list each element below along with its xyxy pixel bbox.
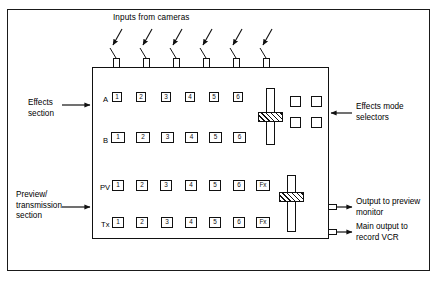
- bus-b-button-1[interactable]: 1: [111, 132, 125, 143]
- bus-a-button-1[interactable]: 1: [112, 92, 122, 102]
- bus-b-button-3[interactable]: 3: [161, 132, 174, 143]
- bus-pv-button-4[interactable]: 4: [185, 180, 197, 191]
- bus-row-label-b: B: [103, 136, 108, 145]
- bus-b-button-6[interactable]: 6: [233, 132, 246, 143]
- camera-input-connector: [203, 58, 210, 67]
- camera-input-connector: [263, 58, 270, 67]
- camera-input-connector: [113, 58, 120, 67]
- bus-pv-button-2[interactable]: 2: [136, 180, 148, 191]
- preview-transmission-line-2: transmission: [16, 201, 62, 212]
- bus-tx-button-5[interactable]: 5: [209, 217, 221, 228]
- bus-a-button-4[interactable]: 4: [185, 92, 195, 102]
- effects-mode-selector-4[interactable]: [311, 117, 322, 128]
- bus-a-button-2[interactable]: 2: [136, 92, 146, 102]
- preview-transmission-fader-handle[interactable]: [279, 192, 304, 202]
- camera-input-connector: [173, 58, 180, 67]
- bus-pv-button-1[interactable]: 1: [112, 180, 124, 191]
- bus-tx-button-6[interactable]: 6: [233, 217, 245, 228]
- bus-b-button-5[interactable]: 5: [209, 132, 222, 143]
- bus-pv-button-5[interactable]: 5: [209, 180, 221, 191]
- bus-pv-button-3[interactable]: 3: [160, 180, 172, 191]
- effects-section-line-2: section: [28, 109, 54, 120]
- effects-section-line-1: Effects: [28, 98, 54, 109]
- output-preview-monitor-label: Output to preview monitor: [356, 197, 420, 218]
- effects-mode-selector-3[interactable]: [290, 117, 301, 128]
- preview-transmission-line-1: Preview/: [16, 190, 62, 201]
- main-output-connector: [329, 229, 337, 235]
- bus-a-button-3[interactable]: 3: [161, 92, 171, 102]
- preview-output-line-1: Output to preview: [356, 197, 420, 208]
- effects-mode-selectors-label: Effects mode selectors: [356, 102, 404, 123]
- bus-a-button-5[interactable]: 5: [209, 92, 219, 102]
- bus-tx-button-2[interactable]: 2: [136, 217, 148, 228]
- main-output-vcr-label: Main output to record VCR: [356, 222, 408, 243]
- bus-pv-button-6[interactable]: 6: [233, 180, 245, 191]
- bus-b-button-4[interactable]: 4: [185, 132, 198, 143]
- preview-transmission-line-3: section: [16, 211, 62, 222]
- bus-row-label-a: A: [103, 95, 108, 104]
- preview-output-connector: [329, 204, 337, 210]
- preview-transmission-fader-track[interactable]: [287, 175, 296, 232]
- effects-fader-handle[interactable]: [258, 112, 283, 122]
- effects-mode-line-2: selectors: [356, 113, 404, 124]
- bus-b-button-2[interactable]: 2: [136, 132, 150, 143]
- bus-tx-button-3[interactable]: 3: [161, 217, 173, 228]
- bus-row-label-pv: PV: [100, 183, 110, 192]
- effects-mode-selector-2[interactable]: [311, 96, 322, 107]
- effects-mode-selector-1[interactable]: [290, 96, 301, 107]
- main-output-line-2: record VCR: [356, 233, 408, 244]
- bus-pv-button-fx[interactable]: Fx: [256, 180, 270, 191]
- camera-input-connector: [233, 58, 240, 67]
- effects-mode-line-1: Effects mode: [356, 102, 404, 113]
- bus-tx-button-fx[interactable]: Fx: [256, 217, 270, 228]
- preview-transmission-section-label: Preview/ transmission section: [16, 190, 62, 222]
- preview-output-line-2: monitor: [356, 208, 420, 219]
- figure-canvas: Inputs from cameras: [0, 0, 437, 282]
- bus-tx-button-4[interactable]: 4: [185, 217, 197, 228]
- main-output-line-1: Main output to: [356, 222, 408, 233]
- bus-a-button-6[interactable]: 6: [233, 92, 243, 102]
- bus-row-label-tx: Tx: [101, 220, 109, 229]
- effects-section-label: Effects section: [28, 98, 54, 119]
- bus-tx-button-1[interactable]: 1: [112, 217, 124, 228]
- camera-input-connector: [143, 58, 150, 67]
